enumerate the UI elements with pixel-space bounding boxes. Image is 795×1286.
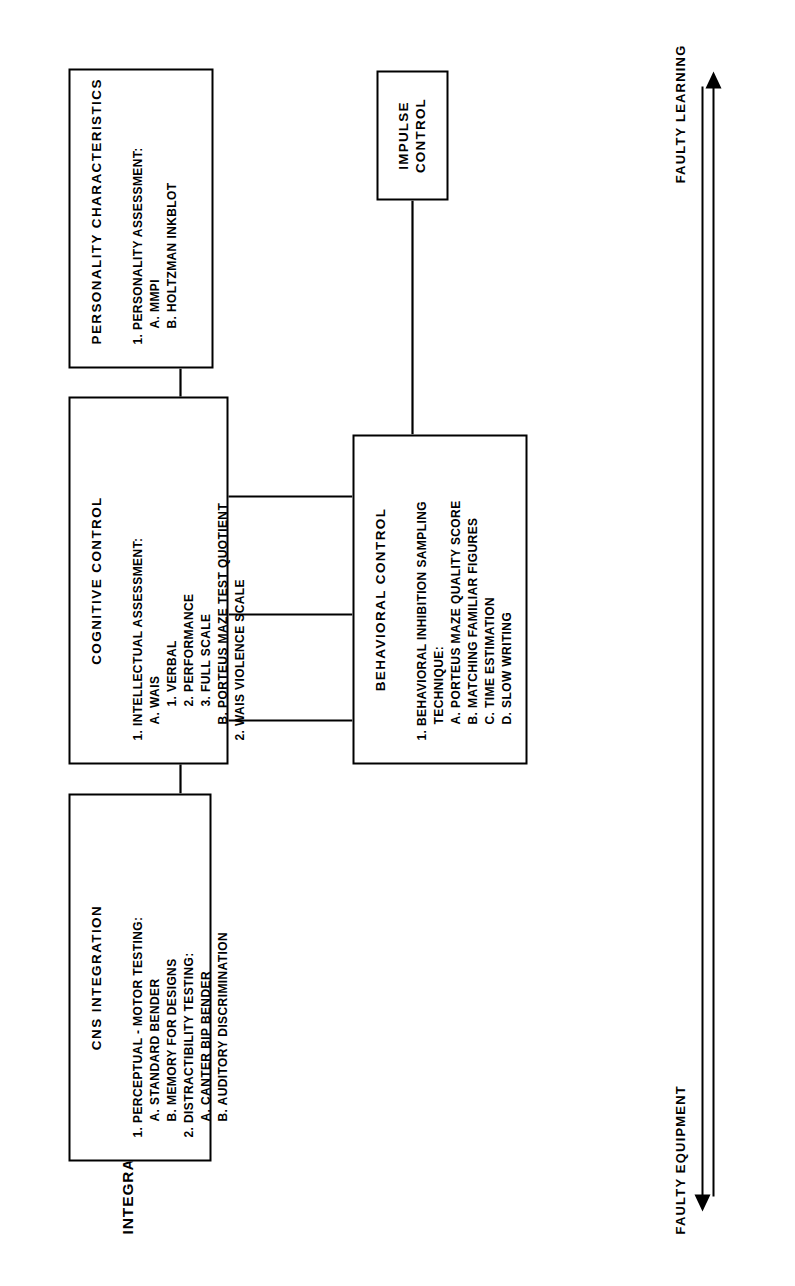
node-behavioral-control-items: 1. BEHAVIORAL INHIBITION SAMPLING TECHNI…: [413, 458, 515, 740]
node-behavioral-control[interactable]: BEHAVIORAL CONTROL 1. BEHAVIORAL INHIBIT…: [352, 434, 527, 764]
list-item: A. CANTER BIP BENDER: [197, 817, 214, 1137]
arrow-left-icon: [694, 1194, 710, 1211]
list-item: 1. PERSONALITY ASSESSMENT:: [129, 92, 146, 344]
node-cognitive-control-title: COGNITIVE CONTROL: [88, 420, 103, 740]
list-item: C. TIME ESTIMATION: [481, 458, 498, 740]
diagram-page: INTEGRATIVE MODEL OF IMPULSE CONTROL FAU…: [0, 0, 795, 1286]
list-item: A. STANDARD BENDER: [146, 817, 163, 1137]
list-item: 1. INTELLECTUAL ASSESSMENT:: [129, 420, 146, 740]
list-item: B. AUDITORY DISCRIMINATION: [214, 817, 231, 1137]
arrow-right-icon: [705, 71, 721, 88]
list-item: TECHNIQUE:: [430, 458, 447, 740]
node-cognitive-control[interactable]: COGNITIVE CONTROL 1. INTELLECTUAL ASSESS…: [68, 396, 228, 764]
continuum-arrows: [698, 86, 720, 1196]
node-behavioral-control-title: BEHAVIORAL CONTROL: [372, 458, 387, 740]
axis-label-faulty-equipment: FAULTY EQUIPMENT: [672, 1085, 687, 1234]
list-item: 2. PERFORMANCE: [180, 420, 197, 740]
axis-label-faulty-learning: FAULTY LEARNING: [672, 44, 687, 183]
node-personality-characteristics[interactable]: PERSONALITY CHARACTERISTICS 1. PERSONALI…: [68, 68, 213, 368]
list-item: 3. FULL SCALE: [197, 420, 214, 740]
list-item: 1. VERBAL: [163, 420, 180, 740]
list-item: B. MEMORY FOR DESIGNS: [163, 817, 180, 1137]
list-item: B. MATCHING FAMILIAR FIGURES: [464, 458, 481, 740]
node-impulse-control[interactable]: IMPULSE CONTROL: [376, 70, 448, 200]
node-cns-integration[interactable]: CNS INTEGRATION 1. PERCEPTUAL - MOTOR TE…: [68, 793, 211, 1161]
node-personality-characteristics-title: PERSONALITY CHARACTERISTICS: [88, 92, 103, 344]
list-item: 2. DISTRACTIBILITY TESTING:: [180, 817, 197, 1137]
list-item: A. MMPI: [146, 92, 163, 344]
node-impulse-control-title: IMPULSE CONTROL: [395, 72, 429, 198]
node-personality-characteristics-items: 1. PERSONALITY ASSESSMENT: A. MMPI B. HO…: [129, 92, 180, 344]
node-cns-integration-title: CNS INTEGRATION: [88, 817, 103, 1137]
list-item: 1. BEHAVIORAL INHIBITION SAMPLING: [413, 458, 430, 740]
axis-line-upper: [701, 86, 703, 1196]
node-cns-integration-items: 1. PERCEPTUAL - MOTOR TESTING: A. STANDA…: [129, 817, 231, 1137]
axis-line-lower: [712, 86, 714, 1196]
list-item: A. WAIS: [146, 420, 163, 740]
list-item: B. PORTEUS MAZE TEST QUOTIENT: [214, 420, 231, 740]
node-cognitive-control-items: 1. INTELLECTUAL ASSESSMENT: A. WAIS 1. V…: [129, 420, 248, 740]
list-item: D. SLOW WRITING: [498, 458, 515, 740]
list-item: B. HOLTZMAN INKBLOT: [163, 92, 180, 344]
list-item: 1. PERCEPTUAL - MOTOR TESTING:: [129, 817, 146, 1137]
list-item: 2. WAIS VIOLENCE SCALE: [231, 420, 248, 740]
list-item: A. PORTEUS MAZE QUALITY SCORE: [447, 458, 464, 740]
diagram-canvas: INTEGRATIVE MODEL OF IMPULSE CONTROL FAU…: [0, 0, 795, 1286]
